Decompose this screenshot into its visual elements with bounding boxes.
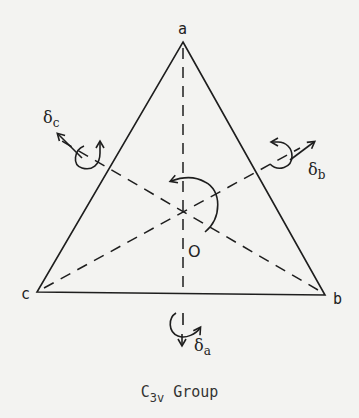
vertex-label-b: b <box>333 292 342 307</box>
delta-subscript: b <box>318 168 326 182</box>
caption-group-symbol: C <box>141 383 150 401</box>
mirror-plane-c <box>44 148 300 288</box>
vertex-label-c: c <box>21 287 30 302</box>
delta-a-label: δa <box>194 338 211 354</box>
delta-subscript: c <box>53 116 60 130</box>
rotation-arrow-icon <box>171 178 218 232</box>
c3v-triangle-diagram <box>0 0 359 418</box>
delta-symbol: δ <box>308 160 318 179</box>
delta-symbol: δ <box>43 108 53 127</box>
vertex-label-a: a <box>178 22 187 37</box>
caption-group-subscript: 3v <box>150 391 164 405</box>
diagram-canvas: a b c O δc δb δa C3v Group <box>0 0 359 418</box>
delta-symbol: δ <box>194 336 204 355</box>
caption-group-word: Group <box>164 383 218 401</box>
delta-subscript: a <box>204 344 211 358</box>
delta-c-label: δc <box>43 110 59 126</box>
delta-b-label: δb <box>308 162 325 178</box>
center-label-o: O <box>188 244 201 260</box>
figure-caption: C3v Group <box>0 383 359 401</box>
